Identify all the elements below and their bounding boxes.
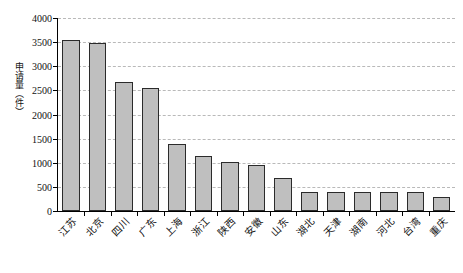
- bar: [142, 88, 159, 211]
- y-axis-tick-label: 2500: [16, 85, 52, 96]
- x-axis-line: [57, 211, 455, 212]
- bar: [354, 192, 371, 211]
- plot-area: [57, 18, 455, 212]
- bar: [115, 82, 132, 211]
- y-axis-tickmark: [53, 66, 57, 67]
- y-axis-tickmark: [53, 139, 57, 140]
- y-axis-tick-label: 0: [16, 206, 52, 217]
- bar: [89, 43, 106, 211]
- y-axis-tick-label: 1000: [16, 157, 52, 168]
- y-axis-tick-label: 1500: [16, 133, 52, 144]
- bar: [274, 178, 291, 211]
- y-axis-tickmark: [53, 211, 57, 212]
- bars-layer: [58, 18, 455, 211]
- bar: [62, 40, 79, 211]
- bar: [380, 192, 397, 211]
- y-axis-tickmark: [53, 18, 57, 19]
- y-axis-tickmark: [53, 187, 57, 188]
- bar: [301, 192, 318, 211]
- y-axis-tickmark: [53, 42, 57, 43]
- y-axis-tick-label: 3000: [16, 61, 52, 72]
- y-axis-tickmark: [53, 115, 57, 116]
- bar: [248, 165, 265, 211]
- y-axis-tick-label: 3500: [16, 37, 52, 48]
- bar: [407, 192, 424, 211]
- bar: [168, 144, 185, 211]
- y-axis-tickmark: [53, 163, 57, 164]
- x-axis-tick-labels: 江苏北京四川广东上海浙江陕西安徽山东湖北天津湖南河北台湾重庆: [57, 214, 455, 272]
- bar: [195, 156, 212, 211]
- y-axis-tick-labels: 05001000150020002500300035004000: [16, 12, 52, 212]
- bar: [221, 162, 238, 211]
- y-axis-tick-label: 2000: [16, 109, 52, 120]
- bar: [433, 197, 450, 211]
- bar: [327, 192, 344, 211]
- bar-chart: 申请量（件） 05001000150020002500300035004000 …: [0, 0, 463, 273]
- y-axis-tickmark: [53, 90, 57, 91]
- y-axis-tick-label: 4000: [16, 13, 52, 24]
- y-axis-tick-label: 500: [16, 181, 52, 192]
